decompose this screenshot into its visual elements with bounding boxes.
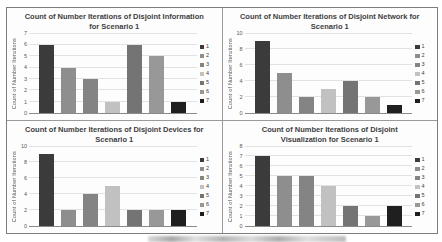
legend-entry-4: 4 (200, 71, 219, 77)
bar-category-2 (61, 210, 76, 226)
bar-category-4 (105, 102, 120, 113)
y-tick-label: 4 (24, 65, 27, 71)
bar-category-1 (39, 45, 54, 113)
y-tick-label: 7 (239, 154, 242, 160)
y-axis-label: Count of Number Iterations (10, 147, 18, 228)
legend-swatch-icon (200, 185, 205, 190)
y-tick-label: 0 (239, 111, 242, 117)
legend-swatch-icon (200, 176, 205, 181)
legend-label: 3 (206, 62, 209, 68)
legend-entry-5: 5 (200, 193, 219, 199)
legend-label: 1 (422, 44, 425, 50)
legend-entry-3: 3 (415, 175, 434, 181)
plot-area (245, 34, 413, 115)
legend-entry-3: 3 (200, 62, 219, 68)
legend-swatch-icon (415, 176, 420, 181)
legend-label: 4 (206, 184, 209, 190)
legend-swatch-icon (415, 99, 420, 104)
legend-swatch-icon (415, 54, 420, 59)
legend-entry-7: 7 (415, 211, 434, 217)
legend-label: 1 (422, 157, 425, 163)
bar-series (29, 34, 197, 114)
legend-label: 6 (422, 202, 425, 208)
bar-series (245, 34, 413, 114)
legend-entry-6: 6 (200, 202, 219, 208)
legend-entry-4: 4 (200, 184, 219, 190)
chart-panel-disjoint-visualization: Count of Number Iterations of Disjoint V… (223, 121, 438, 233)
legend-entry-1: 1 (200, 157, 219, 163)
legend-label: 6 (206, 202, 209, 208)
y-tick-label: 8 (239, 47, 242, 53)
legend-swatch-icon (415, 72, 420, 77)
legend-label: 2 (206, 53, 209, 59)
legend-swatch-icon (200, 81, 205, 86)
legend-entry-4: 4 (415, 184, 434, 190)
y-axis-ticks: 01234567 (18, 34, 29, 115)
legend-swatch-icon (415, 203, 420, 208)
bar-category-5 (343, 81, 358, 113)
legend-label: 3 (422, 62, 425, 68)
legend-swatch-icon (200, 72, 205, 77)
legend-swatch-icon (415, 212, 420, 217)
legend-label: 1 (206, 44, 209, 50)
legend-entry-4: 4 (415, 71, 434, 77)
legend-entry-7: 7 (200, 98, 219, 104)
legend-swatch-icon (415, 167, 420, 172)
bar-category-7 (171, 210, 186, 226)
legend-label: 7 (206, 98, 209, 104)
chart-title: Count of Number Iterations of Disjoint D… (10, 123, 219, 147)
bar-category-1 (39, 154, 54, 226)
cropped-caption-remnant (148, 236, 346, 242)
y-tick-label: 6 (24, 42, 27, 48)
y-tick-label: 8 (239, 144, 242, 150)
y-axis-ticks: 0246810 (234, 34, 245, 115)
y-axis-label: Count of Number Iterations (10, 34, 18, 115)
legend-label: 6 (422, 89, 425, 95)
y-tick-label: 5 (239, 174, 242, 180)
bar-category-3 (83, 194, 98, 226)
chart-panel-disjoint-information: Count of Number Iterations of Disjoint I… (7, 8, 222, 120)
legend-entry-1: 1 (200, 44, 219, 50)
y-tick-label: 4 (239, 184, 242, 190)
chart-panel-disjoint-devices: Count of Number Iterations of Disjoint D… (7, 121, 222, 233)
legend-label: 7 (422, 98, 425, 104)
plot-area (29, 34, 197, 115)
bar-category-5 (127, 210, 142, 226)
y-axis-label: Count of Number Iterations (226, 34, 234, 115)
legend-entry-5: 5 (415, 193, 434, 199)
chart-body: Count of Number Iterations 012345678 123… (226, 147, 435, 228)
bar-category-6 (365, 97, 380, 113)
legend-entry-6: 6 (415, 202, 434, 208)
legend-swatch-icon (200, 63, 205, 68)
legend-label: 7 (206, 211, 209, 217)
y-tick-label: 3 (239, 194, 242, 200)
legend-entry-5: 5 (415, 80, 434, 86)
bar-category-2 (277, 73, 292, 113)
bar-category-5 (343, 206, 358, 226)
legend-swatch-icon (200, 194, 205, 199)
y-tick-label: 1 (239, 214, 242, 220)
legend-swatch-icon (415, 90, 420, 95)
y-axis-label: Count of Number Iterations (226, 147, 234, 228)
plot-area (29, 147, 197, 228)
legend-entry-7: 7 (200, 211, 219, 217)
y-tick-label: 4 (239, 79, 242, 85)
legend-label: 2 (206, 166, 209, 172)
legend-label: 3 (422, 175, 425, 181)
legend-entry-3: 3 (200, 175, 219, 181)
legend-label: 6 (206, 89, 209, 95)
plot-area (245, 147, 413, 228)
legend-entry-2: 2 (415, 53, 434, 59)
chart-body: Count of Number Iterations 01234567 1234… (10, 34, 219, 115)
legend-label: 5 (206, 193, 209, 199)
legend-swatch-icon (200, 158, 205, 163)
bar-category-6 (149, 56, 164, 113)
y-axis-ticks: 012345678 (234, 147, 245, 228)
y-tick-label: 4 (24, 192, 27, 198)
y-tick-label: 2 (24, 208, 27, 214)
chart-body: Count of Number Iterations 0246810 12345… (10, 147, 219, 228)
legend-swatch-icon (200, 45, 205, 50)
figure-montage: Count of Number Iterations of Disjoint I… (6, 7, 438, 234)
legend: 1234567 (412, 147, 434, 228)
bar-category-4 (321, 186, 336, 226)
